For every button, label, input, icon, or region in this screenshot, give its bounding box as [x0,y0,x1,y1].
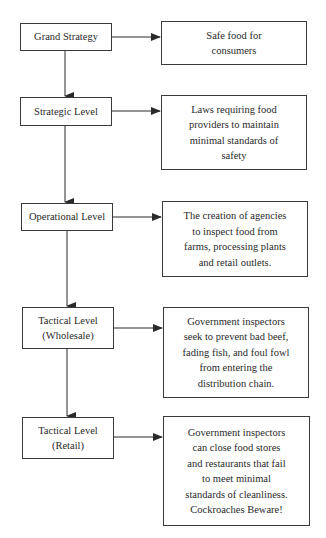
description-text: Government inspectors seek to prevent ba… [182,314,289,392]
level-label: Strategic Level [34,104,98,120]
level-label: Tactical Level (Wholesale) [38,313,98,344]
description-text: The creation of agencies to inspect food… [184,208,287,270]
level-box-strategic: Strategic Level [20,97,112,126]
description-box-grand-strategy: Safe food for consumers [161,21,307,65]
level-label: Operational Level [29,209,105,225]
level-label: Tactical Level (Retail) [38,423,98,454]
horizontal-arrows [112,37,162,437]
level-box-operational: Operational Level [21,203,113,231]
description-text: Safe food for consumers [206,28,261,59]
level-box-tactical-retail: Tactical Level (Retail) [22,417,114,459]
level-box-grand-strategy: Grand Strategy [20,23,112,51]
level-box-tactical-wholesale: Tactical Level (Wholesale) [22,307,114,349]
description-box-tactical-wholesale: Government inspectors seek to prevent ba… [163,307,309,398]
description-text: Government inspectors can close food sto… [185,425,287,518]
level-label: Grand Strategy [34,29,98,45]
description-box-strategic: Laws requiring food providers to maintai… [161,95,307,170]
strategy-levels-flowchart: Grand Strategy Strategic Level Operation… [0,0,326,538]
description-box-operational: The creation of agencies to inspect food… [162,201,308,277]
description-box-tactical-retail: Government inspectors can close food sto… [163,416,310,526]
description-text: Laws requiring food providers to maintai… [189,102,279,164]
